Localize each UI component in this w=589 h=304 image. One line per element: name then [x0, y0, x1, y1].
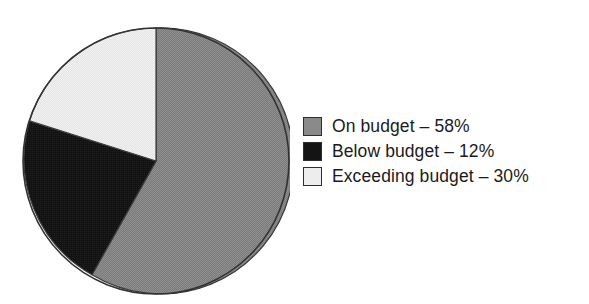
legend-label-exceeding-budget: Exceeding budget – 30%	[332, 167, 529, 186]
legend-swatch-below-budget	[303, 142, 322, 161]
legend-item-exceeding-budget[interactable]: Exceeding budget – 30%	[303, 164, 573, 189]
legend-swatch-exceeding-budget	[303, 167, 322, 186]
pie-chart-plot-area	[22, 27, 290, 295]
pie-chart-svg	[22, 27, 290, 295]
legend-item-below-budget[interactable]: Below budget – 12%	[303, 139, 573, 164]
legend-item-on-budget[interactable]: On budget – 58%	[303, 114, 573, 139]
legend-label-on-budget: On budget – 58%	[332, 117, 470, 136]
pie-chart-figure: On budget – 58% Below budget – 12% Excee…	[0, 0, 589, 304]
legend-label-below-budget: Below budget – 12%	[332, 142, 494, 161]
legend-swatch-on-budget	[303, 117, 322, 136]
chart-legend: On budget – 58% Below budget – 12% Excee…	[303, 114, 573, 189]
